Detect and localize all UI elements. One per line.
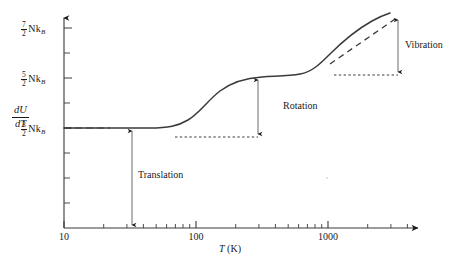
heat-capacity-figure: 7 2 NkB 5 2 NkB 3 2 NkB dU dT 10 100 100… bbox=[0, 0, 450, 257]
x-tick-label-1000: 1000 bbox=[318, 232, 338, 242]
annotation-translation: Translation bbox=[138, 170, 183, 180]
fraction-seven-halves: 7 2 bbox=[21, 21, 27, 38]
y-axis-title-fraction: dU dT bbox=[12, 104, 29, 130]
x-axis-title: T (K) bbox=[219, 244, 241, 254]
nkb-unit: NkB bbox=[28, 124, 45, 136]
y-tick-label-7-2-nkb: 7 2 NkB bbox=[21, 21, 45, 38]
y-axis-title: dU dT bbox=[12, 100, 29, 130]
nkb-unit: NkB bbox=[28, 24, 45, 36]
y-axis bbox=[64, 18, 72, 228]
nkb-unit: NkB bbox=[28, 74, 45, 86]
heat-capacity-curve bbox=[64, 13, 390, 128]
plot-canvas bbox=[0, 0, 450, 257]
x-axis-unit: (K) bbox=[227, 243, 241, 254]
annotation-vibration: Vibration bbox=[405, 40, 443, 50]
vibration-extrapolation-dashed bbox=[330, 17, 398, 64]
scan-speck bbox=[326, 177, 327, 178]
x-tick-label-100: 100 bbox=[189, 232, 204, 242]
x-tick-label-10: 10 bbox=[59, 232, 69, 242]
annotation-rotation: Rotation bbox=[283, 101, 317, 111]
fraction-five-halves: 5 2 bbox=[21, 71, 27, 88]
x-axis bbox=[64, 221, 418, 228]
y-tick-label-5-2-nkb: 5 2 NkB bbox=[21, 71, 45, 88]
